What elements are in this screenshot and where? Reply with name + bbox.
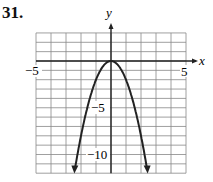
x-axis-label: x (198, 53, 205, 68)
x-min-label: −5 (25, 63, 39, 78)
y-minus10-label: −10 (87, 147, 107, 162)
parabola-chart: x y −5 5 −5 −10 (0, 0, 213, 182)
y-axis-label: y (104, 5, 112, 20)
x-max-label: 5 (181, 64, 188, 79)
y-minus5-label: −5 (91, 100, 105, 115)
